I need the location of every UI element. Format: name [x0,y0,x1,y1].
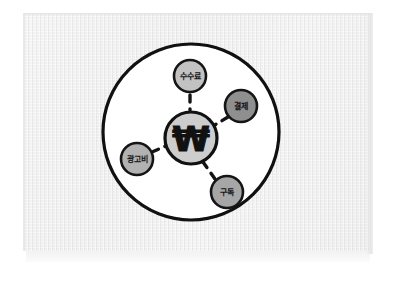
node-fee-label: 수수료 [180,72,202,81]
mind-map-diagram: 수수료결제광고비구독 ₩ [0,0,396,283]
center-node-group[interactable]: ₩ [165,112,217,164]
node-ad-cost-label: 광고비 [127,154,148,164]
screenshot-stage: 수수료결제광고비구독 ₩ [0,0,396,283]
node-payment-label: 결제 [234,101,248,111]
node-subscription-group[interactable]: 구독 [211,176,243,208]
node-ad-cost-group[interactable]: 광고비 [121,143,153,175]
node-fee-group[interactable]: 수수료 [174,60,206,92]
korean-won-symbol: ₩ [172,119,210,159]
node-subscription-label: 구독 [220,188,235,197]
node-payment-group[interactable]: 결제 [225,90,257,122]
